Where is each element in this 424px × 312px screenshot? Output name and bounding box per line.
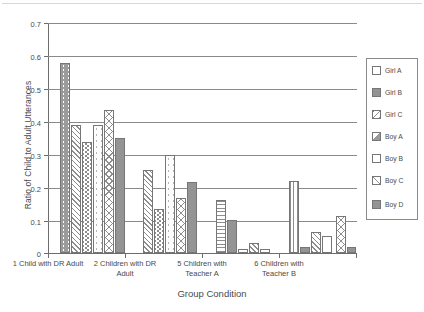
x-category-label-1-line1: 1 Child with DR Adult (13, 259, 83, 268)
legend-label-boy-b: Boy B (385, 155, 403, 162)
gridline-0.6 (48, 56, 357, 57)
legend-item-girl-a: Girl A (372, 65, 418, 76)
bar-g1-boy-d (115, 138, 125, 253)
bar-g2-boy-a (165, 155, 175, 253)
y-tick-label-0.4: 0.4 (15, 119, 41, 128)
x-category-label-3-line2: Teacher A (185, 269, 218, 278)
bar-g1-girl-a (60, 63, 70, 253)
y-tick-label-0.3: 0.3 (15, 152, 41, 161)
bar-g2-girl-b (143, 170, 153, 253)
legend-label-girl-c: Girl C (385, 111, 402, 118)
bar-g3-girl-b (227, 220, 237, 253)
y-axis-line (48, 23, 49, 254)
gridline-0.5 (48, 89, 357, 90)
x-tick-mark-2 (202, 254, 203, 258)
bar-g1-girl-c (82, 142, 92, 253)
x-category-label-2-line2: Adult (116, 269, 133, 278)
bar-g2-boy-d (187, 182, 197, 253)
bar-g1-boy-b (104, 110, 114, 253)
plot-area (48, 23, 357, 254)
legend-item-girl-b: Girl B (372, 87, 418, 98)
legend-label-girl-a: Girl A (385, 67, 402, 74)
legend-swatch-girl-c-icon (372, 110, 381, 119)
x-category-label-1: 1 Child with DR Adult (5, 259, 91, 269)
legend-item-boy-d: Boy D (372, 199, 418, 210)
bar-g4-boy-c (336, 216, 346, 253)
legend-swatch-girl-a-icon (372, 66, 381, 75)
legend-label-boy-c: Boy C (385, 177, 404, 184)
legend-label-boy-d: Boy D (385, 201, 404, 208)
chart-figure: Ratio of Child to Adult Utterances 0.7 0… (0, 0, 424, 312)
scan-edge-line (2, 3, 422, 4)
x-axis-title: Group Condition (0, 288, 424, 299)
legend-item-boy-c: Boy C (372, 175, 418, 186)
bar-g4-boy-d (347, 247, 356, 253)
y-axis-title: Ratio of Child to Adult Utterances (23, 45, 33, 245)
x-category-label-4-line2: Teacher B (262, 269, 296, 278)
x-tick-mark-0 (48, 254, 49, 258)
x-tick-mark-3 (279, 254, 280, 258)
x-category-label-2: 2 Children with DR Adult (82, 259, 168, 278)
y-tick-label-0.1: 0.1 (15, 218, 41, 227)
legend-swatch-boy-b-icon (372, 154, 381, 163)
bar-g2-boy-c (176, 198, 186, 253)
bar-g3-boy-c (260, 249, 270, 253)
x-category-label-2-line1: 2 Children with DR (94, 259, 157, 268)
gridline-0.7 (48, 23, 357, 24)
legend-swatch-girl-b-icon (372, 88, 381, 97)
legend-item-boy-a: Boy A (372, 131, 418, 142)
y-tick-label-0.6: 0.6 (15, 53, 41, 62)
x-category-label-3: 5 Children with Teacher A (159, 259, 245, 278)
x-tick-mark-1 (125, 254, 126, 258)
chart-legend: Girl A Girl B Girl C Boy A Boy B Boy C B… (366, 58, 418, 220)
y-tick-label-0: 0 (15, 250, 41, 259)
y-tick-label-0.2: 0.2 (15, 185, 41, 194)
legend-item-girl-c: Girl C (372, 109, 418, 120)
bar-g2-girl-c (154, 209, 164, 253)
bar-g4-girl-b (300, 247, 310, 253)
x-category-label-4: 6 Children with Teacher B (236, 259, 322, 278)
legend-swatch-boy-d-icon (372, 200, 381, 209)
bar-g4-girl-a (289, 181, 299, 253)
legend-label-boy-a: Boy A (385, 133, 403, 140)
legend-label-girl-b: Girl B (385, 89, 402, 96)
bar-g4-boy-a (311, 232, 321, 253)
gridline-0.4 (48, 122, 357, 123)
x-category-label-4-line1: 6 Children with (254, 259, 304, 268)
y-tick-label-0.7: 0.7 (15, 20, 41, 29)
legend-item-boy-b: Boy B (372, 153, 418, 164)
bar-g1-boy-a (93, 125, 103, 253)
bar-g3-boy-b (249, 243, 259, 253)
legend-swatch-boy-a-icon (372, 132, 381, 141)
bar-g3-girl-a (216, 200, 226, 253)
x-category-label-3-line1: 5 Children with (177, 259, 227, 268)
bar-g3-boy-a (238, 249, 248, 253)
y-tick-label-0.5: 0.5 (15, 86, 41, 95)
bar-g4-boy-b (322, 236, 332, 253)
bar-g1-girl-b (71, 125, 81, 253)
x-tick-mark-4 (356, 254, 357, 258)
legend-swatch-boy-c-icon (372, 176, 381, 185)
